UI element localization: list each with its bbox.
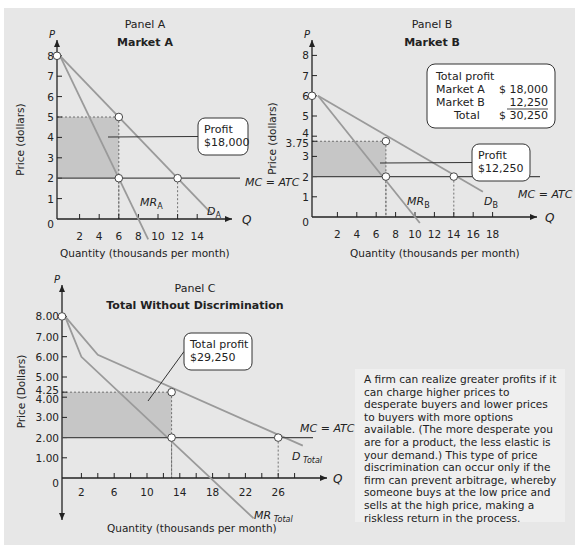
profit-area: [312, 141, 386, 176]
y-axis-title: Price (dollars): [266, 102, 278, 174]
x-tick-label: 26: [272, 486, 286, 498]
y-tick-label: 7: [302, 70, 309, 82]
callout-text: Total profit: [189, 338, 249, 351]
x-tick-label: 6: [111, 486, 118, 498]
demand-label: DB: [484, 195, 498, 210]
x-tick-label: 8: [392, 228, 399, 240]
x-axis-arrow-icon: [320, 475, 327, 481]
summary-row-value: $ 18,000: [499, 83, 548, 96]
point-marker: [168, 434, 176, 442]
total-profit-summary-box: Total profitMarket A$ 18,000Market B12,2…: [427, 64, 555, 128]
mr-label: MR Total: [254, 509, 294, 524]
y-tick-label: 7.00: [36, 331, 59, 343]
mc-atc-label: MC = ATC: [245, 176, 300, 189]
callout-text: Profit: [478, 149, 507, 162]
x-tick-label: 22: [239, 486, 252, 498]
y-tick-label: 1: [302, 191, 309, 203]
x-axis-arrow-icon: [530, 214, 537, 220]
x-tick-label: 18: [206, 486, 219, 498]
panel-title: Total Without Discrimination: [106, 299, 283, 312]
point-marker: [450, 173, 458, 181]
explanation-text: A firm can realize greater profits if it…: [364, 373, 556, 524]
callout-text: $29,250: [190, 351, 236, 364]
x-tick-label: 10: [408, 228, 421, 240]
y-tick-label: 2: [302, 171, 309, 183]
x-tick-label: 2: [334, 228, 341, 240]
point-marker: [53, 52, 61, 60]
y-tick-label: 3: [302, 150, 309, 162]
x-tick-label: 6: [373, 228, 380, 240]
x-tick-label: 12: [171, 230, 184, 242]
y-tick-label: 5: [302, 110, 309, 122]
y-tick-label: 6.00: [36, 351, 59, 363]
demand-label: DA: [207, 205, 221, 220]
x-tick-label: 16: [467, 228, 481, 240]
x-axis-symbol: Q: [242, 213, 251, 227]
point-marker: [382, 137, 390, 145]
callout-pointer: [108, 137, 198, 138]
mr-label: MRB: [407, 195, 430, 210]
point-marker: [174, 174, 182, 182]
point-marker: [382, 173, 390, 181]
y-tick-label: 8.00: [36, 310, 59, 322]
y-axis-title: Price (dollars): [14, 103, 26, 175]
point-marker: [58, 313, 66, 321]
y-tick-label: 4: [47, 131, 54, 143]
panel-label: Panel C: [175, 282, 216, 295]
y-tick-label: 3.00: [36, 411, 59, 423]
callout-text: $12,250: [478, 162, 524, 175]
x-tick-label: 4: [353, 228, 360, 240]
y-axis-title: Price (Dollars): [15, 355, 27, 429]
summary-row-value: 12,250: [510, 96, 549, 109]
y-axis-symbol: P: [304, 29, 311, 40]
panel-c: Panel CTotal Without DiscriminationPQ01.…: [15, 274, 355, 534]
x-tick-label: 4: [96, 230, 103, 242]
mc-atc-label: MC = ATC: [300, 422, 355, 435]
y-tick-label: 5.00: [36, 371, 59, 383]
x-tick-label: 6: [115, 230, 122, 242]
point-marker: [115, 113, 123, 121]
x-tick-label: 14: [191, 230, 205, 242]
x-tick-label: 10: [140, 486, 153, 498]
point-marker: [308, 92, 316, 100]
summary-row-label: Total: [453, 109, 480, 122]
point-marker: [168, 388, 176, 396]
x-tick-label: 8: [135, 230, 142, 242]
y-tick-label: 2.00: [36, 432, 59, 444]
y-tick-label: 4.25: [36, 384, 59, 396]
y-tick-label: 1: [47, 193, 54, 205]
y-axis-symbol: P: [49, 29, 56, 40]
point-marker: [274, 434, 282, 442]
y-tick-label: 2: [47, 172, 54, 184]
callout-text: $18,000: [204, 136, 250, 149]
y-tick-label: 0: [302, 216, 309, 228]
mr-label: MRA: [140, 196, 163, 211]
y-tick-label: 3: [47, 152, 54, 164]
x-tick-label: 10: [151, 230, 164, 242]
x-tick-label: 2: [76, 230, 83, 242]
x-axis-title: Quantity (thousands per month): [60, 247, 230, 259]
x-tick-label: 12: [428, 228, 441, 240]
y-axis-arrow-icon: [59, 285, 65, 292]
x-tick-label: 18: [486, 228, 499, 240]
y-tick-label: 6: [47, 91, 54, 103]
profit-area: [57, 117, 119, 178]
summary-row-value: $ 30,250: [499, 109, 548, 122]
explanation-note: A firm can realize greater profits if it…: [355, 369, 565, 522]
y-axis-down-arrow-icon: [59, 513, 65, 520]
point-marker: [115, 174, 123, 182]
panel-label: Panel A: [125, 18, 166, 31]
panel-a: Panel AMarket APQ0123456782468101214Quan…: [14, 18, 300, 259]
y-tick-label: 0: [52, 477, 59, 489]
y-tick-label: 5: [47, 111, 54, 123]
x-axis-title: Quantity (thousands per month): [350, 247, 520, 259]
y-tick-label: 8: [302, 49, 309, 61]
y-axis-arrow-icon: [309, 40, 315, 47]
x-tick-label: 14: [447, 228, 461, 240]
panel-title: Market B: [404, 36, 460, 49]
y-axis-arrow-icon: [54, 40, 60, 47]
x-axis-title: Quantity (thousands per month): [107, 522, 277, 534]
callout-pointer: [380, 163, 472, 164]
summary-heading: Total profit: [435, 70, 495, 83]
x-axis-symbol: Q: [333, 472, 342, 486]
